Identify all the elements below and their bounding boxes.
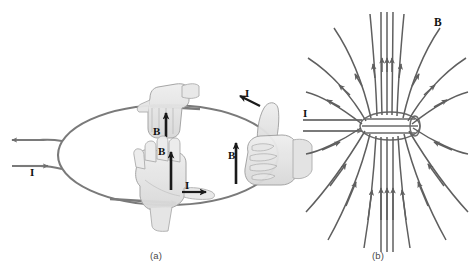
lead-wire-top	[12, 140, 62, 141]
top-hand-b-label: B	[153, 126, 160, 137]
physics-figure	[0, 0, 469, 274]
caption-panel-a: (a)	[150, 250, 162, 261]
palm-hand-b-label: B	[158, 146, 165, 157]
palm-hand-i-label: I	[185, 180, 189, 191]
lead-current-label: I	[30, 167, 34, 178]
solenoid-current-label: I	[303, 108, 307, 119]
field-label: B	[434, 17, 442, 29]
caption-panel-b: (b)	[372, 250, 384, 261]
fist-hand-b-label: B	[228, 150, 235, 161]
fist-hand-i-label: I	[245, 88, 249, 99]
